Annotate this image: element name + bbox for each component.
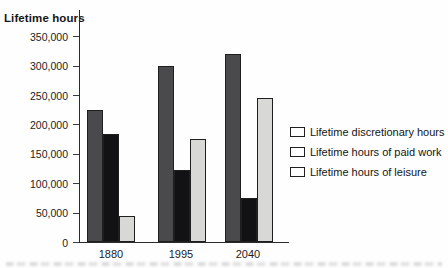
y-axis-tick — [73, 213, 79, 214]
y-axis-tick — [73, 95, 79, 96]
bar-1880-series-0 — [87, 110, 103, 242]
bar-2040-series-0 — [225, 54, 241, 242]
y-axis-tick — [73, 36, 79, 37]
y-axis-tick-label: 200,000 — [2, 119, 68, 131]
legend-swatch-discretionary — [290, 127, 305, 137]
bar-1995-series-2 — [190, 139, 206, 242]
legend-label-leisure: Lifetime hours of leisure — [310, 166, 427, 178]
y-axis-tick-label: 100,000 — [2, 178, 68, 190]
y-axis-tick — [73, 154, 79, 155]
legend-label-discretionary: Lifetime discretionary hours — [310, 126, 445, 138]
y-axis-tick — [73, 183, 79, 184]
bar-1880-series-1 — [103, 134, 119, 242]
y-axis-tick-label: 300,000 — [2, 60, 68, 72]
x-axis-label-1995: 1995 — [159, 248, 203, 260]
bar-2040-series-2 — [257, 98, 273, 242]
chart-figure: Lifetime hours Lifetime discretionary ho… — [0, 0, 448, 268]
y-axis-tick-label: 0 — [2, 237, 68, 249]
y-axis-tick-label: 350,000 — [2, 31, 68, 43]
bar-1995-series-0 — [158, 66, 174, 242]
legend-swatch-paid-work — [290, 147, 305, 157]
bar-1995-series-1 — [174, 170, 190, 242]
cropped-text-remnant — [6, 262, 442, 266]
x-axis-line — [79, 242, 289, 243]
x-axis-label-2040: 2040 — [226, 248, 270, 260]
legend-swatch-leisure — [290, 167, 305, 177]
y-axis-tick-label: 250,000 — [2, 90, 68, 102]
y-axis-tick-label: 150,000 — [2, 148, 68, 160]
y-axis-tick — [73, 242, 79, 243]
y-axis-tick — [73, 124, 79, 125]
x-axis-label-1880: 1880 — [89, 248, 133, 260]
chart-title: Lifetime hours — [4, 12, 85, 24]
y-axis-line — [79, 10, 80, 243]
bar-2040-series-1 — [241, 198, 257, 242]
bar-1880-series-2 — [119, 216, 135, 243]
y-axis-tick — [73, 66, 79, 67]
y-axis-tick-label: 50,000 — [2, 207, 68, 219]
legend-label-paid-work: Lifetime hours of paid work — [310, 146, 441, 158]
